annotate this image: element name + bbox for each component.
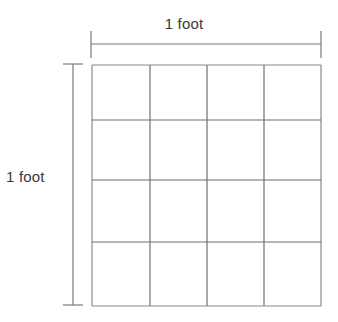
grid-lines-vertical xyxy=(92,65,321,306)
square-foot-grid-figure: 1 foot 1 foot xyxy=(0,0,338,322)
vertical-dimension-label: 1 foot xyxy=(6,168,45,185)
vertical-dimension xyxy=(63,64,83,305)
horizontal-dimension-label: 1 foot xyxy=(0,15,338,32)
horizontal-dimension xyxy=(91,31,321,58)
figure-drawing xyxy=(0,0,338,322)
